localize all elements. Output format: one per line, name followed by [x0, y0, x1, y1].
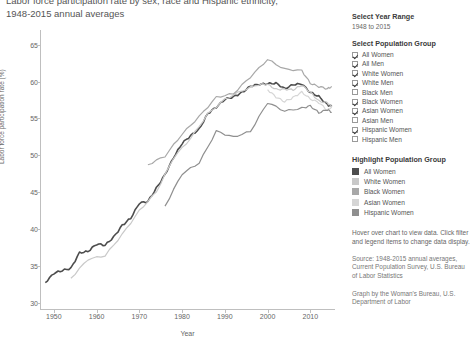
- x-tick-label: 1960: [89, 313, 105, 320]
- highlight-item[interactable]: Hispanic Women: [352, 207, 470, 217]
- legend-item-label: Hispanic Men: [362, 135, 402, 144]
- highlight-item-label: Hispanic Women: [364, 209, 414, 216]
- color-swatch[interactable]: [352, 178, 359, 185]
- series-line: [45, 83, 331, 283]
- x-axis-label: Year: [40, 330, 335, 337]
- highlight-item-label: All Women: [364, 168, 396, 175]
- color-swatch[interactable]: [352, 168, 359, 175]
- x-tick-label: 1970: [132, 313, 148, 320]
- legend-item-label: All Women: [362, 50, 394, 59]
- x-tick-label: 2000: [260, 313, 276, 320]
- highlight-item-label: White Women: [364, 178, 405, 185]
- legend-item[interactable]: White Men: [352, 78, 470, 87]
- y-tick-mark: [37, 82, 41, 83]
- legend-item[interactable]: Asian Women: [352, 106, 470, 115]
- highlight-group-heading: Highlight Population Group: [352, 155, 470, 164]
- legend-item[interactable]: White Women: [352, 69, 470, 78]
- legend-item[interactable]: All Women: [352, 50, 470, 59]
- x-tick-label: 1980: [174, 313, 190, 320]
- legend-item-label: White Women: [362, 69, 403, 78]
- highlight-item[interactable]: All Women: [352, 166, 470, 176]
- y-tick-mark: [37, 192, 41, 193]
- legend-item-label: Asian Women: [362, 106, 403, 115]
- x-tick-mark: [54, 309, 55, 313]
- y-tick-mark: [37, 155, 41, 156]
- x-tick-mark: [225, 309, 226, 313]
- legend-item-label: Hispanic Women: [362, 125, 412, 134]
- series-line: [165, 104, 332, 207]
- highlight-group-list[interactable]: All WomenWhite WomenBlack WomenAsian Wom…: [352, 166, 470, 218]
- y-tick-mark: [37, 266, 41, 267]
- legend-item-label: Black Women: [362, 97, 403, 106]
- legend-item[interactable]: Black Men: [352, 88, 470, 97]
- population-group-heading: Select Population Group: [352, 39, 470, 48]
- series-line: [148, 60, 332, 165]
- x-tick-label: 2010: [303, 313, 319, 320]
- checkbox-checked-icon[interactable]: [352, 52, 358, 58]
- y-axis-label: Labor force participation rate (%): [0, 69, 5, 164]
- x-tick-mark: [310, 309, 311, 313]
- series-lines: [41, 30, 336, 310]
- checkbox-unchecked-icon[interactable]: [352, 117, 358, 123]
- checkbox-checked-icon[interactable]: [352, 127, 358, 133]
- hover-note: Hover over chart to view data. Click fil…: [352, 228, 470, 246]
- legend-item-label: White Men: [362, 78, 394, 87]
- legend-item[interactable]: Asian Men: [352, 116, 470, 125]
- legend-item-label: Asian Men: [362, 116, 393, 125]
- x-tick-mark: [139, 309, 140, 313]
- chart-container[interactable]: Labor force participation rate (%) 30354…: [0, 14, 348, 348]
- y-tick-mark: [37, 118, 41, 119]
- page-title-line1: Labor force participation rate by sex, r…: [6, 0, 346, 7]
- legend-item[interactable]: Black Women: [352, 97, 470, 106]
- x-tick-label: 1990: [217, 313, 233, 320]
- x-tick-label: 1950: [46, 313, 62, 320]
- legend-item[interactable]: Hispanic Men: [352, 135, 470, 144]
- checkbox-checked-icon[interactable]: [352, 108, 358, 114]
- legend-item-label: Black Men: [362, 88, 393, 97]
- checkbox-unchecked-icon[interactable]: [352, 136, 358, 142]
- highlight-item[interactable]: Black Women: [352, 187, 470, 197]
- x-tick-mark: [268, 309, 269, 313]
- color-swatch[interactable]: [352, 209, 359, 216]
- legend-item-label: All Men: [362, 59, 384, 68]
- highlight-item-label: Asian Women: [364, 199, 405, 206]
- color-swatch[interactable]: [352, 199, 359, 206]
- x-tick-mark: [97, 309, 98, 313]
- checkbox-checked-icon[interactable]: [352, 99, 358, 105]
- y-tick-mark: [37, 229, 41, 230]
- checkbox-checked-icon[interactable]: [352, 80, 358, 86]
- population-group-list[interactable]: All WomenAll MenWhite WomenWhite MenBlac…: [352, 50, 470, 144]
- credit-note: Graph by the Woman's Bureau, U.S. Depart…: [352, 290, 470, 307]
- highlight-item[interactable]: Asian Women: [352, 197, 470, 207]
- legend-item[interactable]: Hispanic Women: [352, 125, 470, 134]
- x-tick-mark: [182, 309, 183, 313]
- checkbox-checked-icon[interactable]: [352, 70, 358, 76]
- plot-area[interactable]: 3035404550556065 19501960197019801990200…: [40, 30, 335, 310]
- y-tick-mark: [37, 303, 41, 304]
- legend-item[interactable]: All Men: [352, 59, 470, 68]
- highlight-item-label: Black Women: [364, 188, 405, 195]
- source-note: Source: 1948-2015 annual averages, Curre…: [352, 255, 470, 281]
- year-range-value: 1948 to 2015: [352, 23, 470, 30]
- checkbox-checked-icon[interactable]: [352, 61, 358, 67]
- y-tick-mark: [37, 45, 41, 46]
- control-panel[interactable]: Select Year Range 1948 to 2015 Select Po…: [352, 12, 470, 342]
- year-range-heading: Select Year Range: [352, 12, 470, 21]
- color-swatch[interactable]: [352, 188, 359, 195]
- highlight-item[interactable]: White Women: [352, 176, 470, 186]
- checkbox-unchecked-icon[interactable]: [352, 89, 358, 95]
